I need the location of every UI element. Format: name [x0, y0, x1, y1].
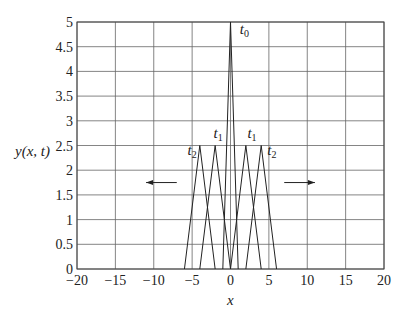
arrow-right-head-icon: [308, 180, 315, 185]
y-tick-label: 0: [66, 262, 73, 277]
y-tick-label: 3: [66, 114, 73, 129]
y-tick-label: 2: [66, 163, 73, 178]
y-tick-label: 0.5: [56, 237, 74, 252]
x-tick-label: −15: [104, 273, 126, 288]
x-axis-label: x: [226, 292, 234, 308]
arrow-left-head-icon: [146, 180, 153, 185]
y-tick-label: 3.5: [56, 89, 74, 104]
y-tick-label: 4.5: [56, 40, 74, 55]
x-tick-label: 20: [377, 273, 391, 288]
x-tick-label: 15: [339, 273, 353, 288]
y-tick-label: 5: [66, 15, 73, 30]
label-t0: t0: [240, 21, 249, 39]
grid-lines: [77, 22, 384, 269]
label-t1: t1: [247, 125, 256, 143]
x-tick-label: −10: [143, 273, 165, 288]
y-tick-label: 4: [66, 64, 73, 79]
series-t2-left-: [184, 146, 215, 270]
x-tick-label: 5: [265, 273, 272, 288]
x-tick-label: 10: [300, 273, 314, 288]
x-tick-label: −5: [185, 273, 200, 288]
chart: −20−15−10−50510152000.511.522.533.544.55…: [0, 0, 407, 313]
y-tick-label: 1: [66, 213, 73, 228]
label-t1: t1: [214, 125, 223, 143]
x-tick-label: 0: [227, 273, 234, 288]
y-tick-label: 2.5: [56, 139, 74, 154]
y-axis-label: y(x, t): [13, 143, 50, 160]
series-t2-right-: [246, 146, 277, 270]
label-t2: t2: [267, 142, 276, 160]
y-tick-label: 1.5: [56, 188, 74, 203]
